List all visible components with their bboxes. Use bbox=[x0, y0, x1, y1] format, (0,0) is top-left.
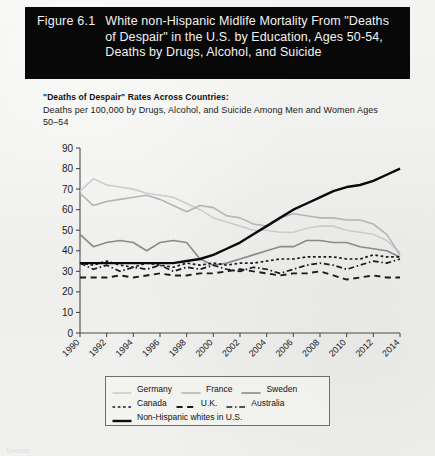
y-axis-tick-label: 30 bbox=[62, 266, 74, 277]
source-note: Source: bbox=[6, 447, 32, 454]
legend-swatch-icon bbox=[112, 398, 132, 408]
legend-row: GermanyFranceSweden bbox=[112, 382, 323, 396]
figure-title-banner: Figure 6.1 White non-Hispanic Midlife Mo… bbox=[25, 7, 410, 79]
legend-row: CanadaU.K.Australia bbox=[112, 396, 323, 410]
legend-swatch-icon bbox=[226, 398, 246, 408]
legend-item-germany[interactable]: Germany bbox=[112, 384, 172, 394]
legend-item-non-hispanic-whites-in-u-s[interactable]: Non-Hispanic whites in U.S. bbox=[112, 412, 242, 422]
legend-label: Germany bbox=[137, 384, 172, 394]
y-axis-tick-label: 90 bbox=[62, 143, 74, 154]
legend-label: Sweden bbox=[266, 384, 297, 394]
y-axis-tick-label: 0 bbox=[67, 328, 73, 339]
series-line-non-hispanic-whites-in-u-s bbox=[80, 169, 400, 264]
x-axis-tick-label: 2006 bbox=[274, 337, 295, 358]
x-axis-tick-label: 1996 bbox=[140, 337, 161, 358]
x-axis-tick-label: 2008 bbox=[300, 337, 321, 358]
legend-item-france[interactable]: France bbox=[181, 384, 232, 394]
series-line-france bbox=[80, 193, 400, 255]
legend-label: U.K. bbox=[201, 398, 218, 408]
x-axis-tick-label: 2012 bbox=[354, 337, 375, 358]
x-axis-tick-label: 2002 bbox=[220, 337, 241, 358]
x-axis-tick-label: 1990 bbox=[60, 337, 81, 358]
x-axis-tick-label: 1998 bbox=[167, 337, 188, 358]
legend-swatch-icon bbox=[112, 412, 132, 422]
figure-number: Figure 6.1 bbox=[25, 14, 95, 79]
series-line-canada bbox=[80, 255, 400, 267]
legend-label: Canada bbox=[137, 398, 167, 408]
legend-swatch-icon bbox=[176, 398, 196, 408]
x-axis-tick-label: 2004 bbox=[247, 337, 268, 358]
y-axis-tick-label: 10 bbox=[62, 307, 74, 318]
y-axis-tick-label: 20 bbox=[62, 286, 74, 297]
y-axis-tick-label: 40 bbox=[62, 245, 74, 256]
x-axis-tick-label: 1994 bbox=[114, 337, 135, 358]
legend-swatch-icon bbox=[241, 384, 261, 394]
series-line-sweden bbox=[80, 234, 400, 265]
legend-label: Australia bbox=[251, 398, 284, 408]
legend-item-australia[interactable]: Australia bbox=[226, 398, 284, 408]
x-axis-tick-label: 2000 bbox=[194, 337, 215, 358]
y-axis-tick-label: 50 bbox=[62, 225, 74, 236]
figure-title-text: White non-Hispanic Midlife Mortality Fro… bbox=[95, 14, 410, 79]
legend-item-sweden[interactable]: Sweden bbox=[241, 384, 297, 394]
y-axis-tick-label: 70 bbox=[62, 184, 74, 195]
chart-legend: GermanyFranceSwedenCanadaU.K.AustraliaNo… bbox=[105, 376, 330, 426]
legend-label: Non-Hispanic whites in U.S. bbox=[137, 412, 242, 422]
legend-row: Non-Hispanic whites in U.S. bbox=[112, 410, 323, 424]
y-axis-tick-label: 80 bbox=[62, 163, 74, 174]
legend-swatch-icon bbox=[112, 384, 132, 394]
y-axis-tick-label: 60 bbox=[62, 204, 74, 215]
legend-swatch-icon bbox=[181, 384, 201, 394]
legend-item-canada[interactable]: Canada bbox=[112, 398, 167, 408]
chart-card: "Deaths of Despair" Rates Across Countri… bbox=[25, 88, 410, 440]
x-axis-tick-label: 1992 bbox=[87, 337, 108, 358]
x-axis-tick-label: 2014 bbox=[380, 337, 401, 358]
legend-item-u-k[interactable]: U.K. bbox=[176, 398, 218, 408]
legend-label: France bbox=[206, 384, 232, 394]
x-axis-tick-label: 2010 bbox=[327, 337, 348, 358]
